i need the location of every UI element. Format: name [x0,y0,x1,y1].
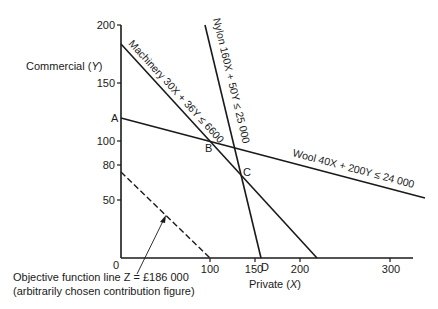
x-tick-label-300: 300 [382,263,400,275]
objective-label-line1: Objective function line Z = £186 000 [13,271,189,283]
y-tick-label-200: 200 [97,19,115,31]
x-tick-label-100: 100 [201,263,219,275]
arrowhead-icon [160,215,166,223]
y-tick-label-150: 150 [97,77,115,89]
y-tick-label-50: 50 [103,194,115,206]
point-label-c: C [243,166,251,178]
objective-label-line2: (arbitrarily chosen contribution figure) [13,285,195,297]
objective-function-line [121,172,210,258]
point-label-b: B [205,142,212,154]
x-tick-label-200: 200 [291,263,309,275]
origin-label: 0 [113,259,119,271]
objective-arrow [137,219,164,274]
point-label-a: A [111,112,119,124]
y-tick-label-100: 100 [97,135,115,147]
point-label-d: D [261,261,269,273]
machinery-constraint-line [121,44,317,258]
wool-constraint-line [121,118,425,198]
x-axis-title: Private (X) [249,278,301,290]
lp-graph: 200 150 100 80 50 0 100 150 200 300 Comm… [0,0,438,309]
y-axis-title: Commercial (Y) [26,60,102,72]
y-tick-label-80: 80 [103,159,115,171]
